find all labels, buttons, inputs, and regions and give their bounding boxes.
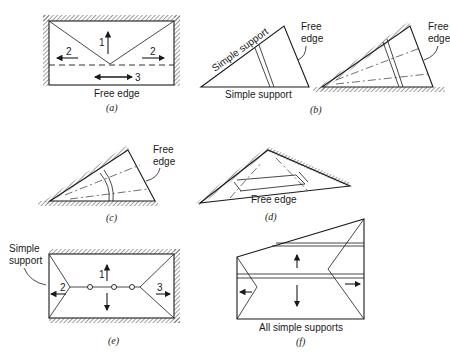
free-edge-label-right-1: Free — [428, 21, 449, 32]
caption-d: (d) — [265, 211, 277, 223]
arrow-3-label: 3 — [135, 72, 141, 83]
caption-b: (b) — [310, 104, 322, 116]
free-edge-label-c-2: edge — [153, 156, 176, 167]
free-edge-label-c-1: Free — [153, 144, 174, 155]
free-edge-label-d: Free edge — [251, 194, 297, 205]
arrow-3-label-e: 3 — [157, 282, 163, 293]
arrow-2-left-label: 2 — [66, 46, 72, 57]
panel-b: Simple support Simple support Free edge … — [201, 21, 450, 116]
caption-a: (a) — [106, 102, 118, 114]
panel-f: All simple supports (f) — [237, 219, 364, 348]
free-edge-label: Free edge — [94, 88, 140, 99]
free-edge-label-1: Free — [301, 21, 322, 32]
yield-line-diagram: 1 2 2 3 Free edge (a) Simple support Sim… — [0, 0, 450, 357]
simple-support-label-top: Simple support — [210, 25, 271, 73]
arrow-1-label-e: 1 — [99, 269, 105, 280]
caption-c: (c) — [106, 212, 118, 224]
free-edge-label-right-2: edge — [428, 33, 450, 44]
panel-c: Free edge (c) — [38, 144, 176, 224]
panel-e: 1 2 3 Simple support (e) — [9, 243, 180, 347]
simple-support-label-e-1: Simple — [9, 243, 40, 254]
caption-f: (f) — [296, 336, 306, 348]
caption-e: (e) — [108, 335, 120, 347]
simple-support-label-e-2: support — [9, 255, 43, 266]
all-simple-supports-label: All simple supports — [259, 322, 343, 333]
panel-d: Free edge (d) — [196, 147, 351, 223]
arrow-1-label: 1 — [99, 37, 105, 48]
free-edge-label-2: edge — [301, 33, 324, 44]
arrow-2-right-label: 2 — [150, 46, 156, 57]
simple-support-label-bottom: Simple support — [225, 89, 292, 100]
arrow-2-label-e: 2 — [60, 282, 66, 293]
panel-a: 1 2 2 3 Free edge (a) — [43, 15, 180, 114]
